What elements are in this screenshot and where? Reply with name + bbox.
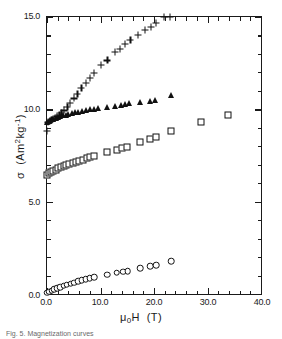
data-point-circle — [49, 287, 56, 294]
data-point-plus — [134, 32, 141, 39]
data-point-plus — [48, 117, 55, 124]
data-point-triangle — [55, 114, 61, 120]
data-point-plus — [49, 116, 56, 123]
x-tick-label: 30.0 — [191, 297, 225, 307]
data-point-circle — [147, 263, 154, 270]
x-axis-major-tick-top — [154, 17, 155, 23]
data-point-triangle — [87, 106, 93, 112]
data-point-triangle — [168, 92, 174, 98]
data-point-triangle — [83, 107, 89, 113]
x-axis-minor-tick — [90, 291, 91, 295]
data-point-circle — [75, 278, 82, 285]
y-axis-major-tick-right — [255, 202, 261, 203]
data-point-square — [48, 168, 55, 175]
data-point-triangle — [53, 115, 59, 121]
data-point-triangle — [47, 117, 53, 123]
data-point-triangle — [69, 110, 75, 116]
data-point-circle — [104, 271, 111, 278]
y-axis-major-tick-right — [255, 294, 261, 295]
x-axis-minor-tick — [143, 291, 144, 295]
data-point-plus — [64, 103, 71, 110]
data-point-circle — [82, 276, 89, 283]
x-axis-minor-tick — [229, 291, 230, 295]
data-point-square — [91, 152, 98, 159]
x-axis-major-tick-top — [101, 17, 102, 23]
data-point-plus — [67, 99, 74, 106]
x-axis-minor-tick — [186, 291, 187, 295]
data-point-plus — [74, 90, 81, 97]
y-axis-minor-tick — [47, 165, 51, 166]
x-axis-minor-tick — [165, 291, 166, 295]
data-point-circle — [120, 269, 127, 276]
data-point-circle — [60, 282, 67, 289]
data-point-plus — [58, 110, 65, 117]
y-axis-minor-tick-right — [258, 128, 262, 129]
x-axis-minor-tick-top — [218, 17, 219, 21]
y-axis-major-tick — [47, 202, 53, 203]
y-axis-minor-tick — [47, 257, 51, 258]
x-axis-minor-tick-top — [186, 17, 187, 21]
data-point-triangle — [118, 102, 124, 108]
data-point-plus — [122, 40, 129, 47]
data-point-plus — [160, 14, 167, 21]
x-tick-label: 20.0 — [137, 297, 171, 307]
x-axis-minor-tick-top — [197, 17, 198, 21]
x-axis-minor-tick — [197, 291, 198, 295]
x-axis-major-tick — [261, 288, 262, 294]
data-point-square — [66, 160, 73, 167]
data-point-square — [113, 146, 120, 153]
x-tick-label: 40.0 — [245, 297, 279, 307]
data-point-square — [76, 157, 83, 164]
data-point-square — [198, 119, 205, 126]
data-point-plus — [54, 113, 61, 120]
data-point-plus — [78, 85, 85, 92]
data-point-circle — [113, 269, 120, 276]
x-axis-title-rest: H (T) — [132, 311, 163, 323]
x-axis-minor-tick — [175, 291, 176, 295]
data-point-triangle — [147, 98, 153, 104]
data-point-circle — [71, 279, 78, 286]
x-axis-minor-tick-top — [165, 17, 166, 21]
plot-area — [46, 16, 262, 295]
x-axis-minor-tick — [79, 291, 80, 295]
data-point-circle — [87, 275, 94, 282]
data-point-plus — [86, 74, 93, 81]
data-point-square — [137, 139, 144, 146]
data-point-plus — [56, 111, 63, 118]
y-axis-unit-kg: kg — [14, 126, 26, 138]
data-point-plus — [82, 79, 89, 86]
data-point-circle — [63, 281, 70, 288]
data-point-triangle — [46, 118, 52, 124]
y-axis-close-paren: ) — [14, 114, 26, 118]
y-axis-major-tick-right — [255, 17, 261, 18]
y-axis-minor-tick — [47, 276, 51, 277]
data-point-square — [63, 162, 70, 169]
data-point-triangle — [44, 119, 50, 125]
y-axis-minor-tick-right — [258, 239, 262, 240]
data-point-square — [52, 166, 59, 173]
data-point-plus — [70, 95, 77, 102]
data-point-square — [153, 134, 160, 141]
data-point-triangle — [91, 106, 97, 112]
data-point-square — [103, 148, 110, 155]
data-point-square — [83, 155, 90, 162]
x-axis-minor-tick — [133, 291, 134, 295]
x-axis-minor-tick — [58, 291, 59, 295]
x-axis-minor-tick — [218, 291, 219, 295]
data-point-square — [79, 156, 86, 163]
x-axis-minor-tick-top — [122, 17, 123, 21]
data-point-plus — [104, 57, 111, 64]
x-axis-minor-tick-top — [133, 17, 134, 21]
data-point-triangle — [137, 99, 143, 105]
data-point-square — [119, 145, 126, 152]
data-point-square — [46, 170, 53, 177]
y-axis-minor-tick-right — [258, 257, 262, 258]
data-point-circle — [168, 258, 175, 265]
figure-container: 15.0 10.0 5.0 0.0 0.0 10.0 20.0 30.0 40.… — [0, 0, 282, 339]
data-point-circle — [67, 280, 74, 287]
data-point-circle — [124, 268, 131, 275]
y-axis-minor-tick-right — [258, 91, 262, 92]
x-tick-label: 10.0 — [83, 297, 117, 307]
x-axis-title: μ0H (T) — [0, 311, 282, 325]
figure-caption: Fig. 5. Magnetization curves — [6, 329, 278, 338]
